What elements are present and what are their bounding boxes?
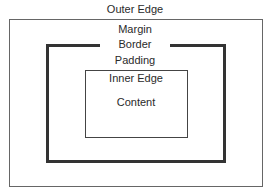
padding-label: Padding <box>115 54 155 67</box>
content-label: Content <box>117 96 156 109</box>
outer-edge-label: Outer Edge <box>107 3 163 16</box>
border-top-right-segment <box>170 44 226 47</box>
border-label: Border <box>118 38 151 51</box>
margin-label: Margin <box>118 23 152 36</box>
inner-edge-label: Inner Edge <box>109 72 163 85</box>
border-top-left-segment <box>46 44 100 47</box>
